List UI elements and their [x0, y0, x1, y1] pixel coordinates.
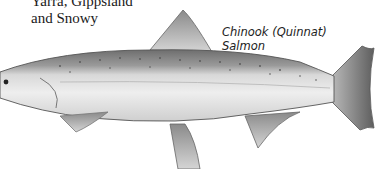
species-label-line1: Chinook (Quinnat)	[222, 25, 327, 39]
region-label-line1: Yarra, Gippsland	[31, 0, 133, 10]
salmon-illustration-panel: Yarra, Gippsland and Snowy Chinook (Quin…	[0, 0, 377, 169]
species-label-line2: Salmon	[222, 39, 327, 53]
region-label: Yarra, Gippsland and Snowy	[31, 0, 133, 27]
region-label-line2: and Snowy	[31, 10, 133, 27]
species-label: Chinook (Quinnat) Salmon	[222, 25, 327, 53]
